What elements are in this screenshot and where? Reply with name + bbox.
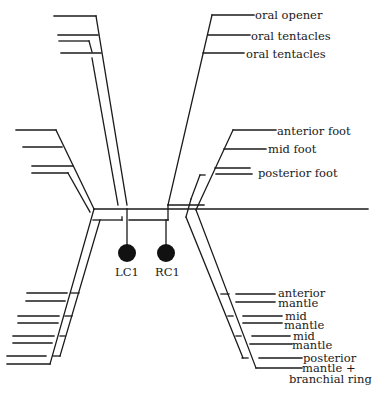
label-oral-tentacles-1: oral tentacles [251, 30, 331, 42]
left-oral-branches [54, 16, 127, 205]
rc1-label: RC1 [155, 266, 180, 278]
label-mid-mantle-b2: mantle [292, 339, 332, 351]
rc1-node [157, 244, 175, 262]
label-mid-foot: mid foot [268, 143, 316, 155]
label-anterior-mantle-2: mantle [278, 297, 318, 309]
lc1-label: LC1 [115, 266, 139, 278]
left-foot-branches [16, 130, 94, 212]
label-oral-tentacles-2: oral tentacles [246, 48, 326, 60]
label-posterior-foot: posterior foot [258, 167, 338, 179]
label-posterior-mantle-3: branchial ring [289, 373, 372, 385]
label-anterior-foot: anterior foot [277, 125, 351, 137]
label-oral-opener: oral opener [255, 9, 322, 21]
cell-bodies [118, 209, 175, 262]
lc1-node [118, 244, 136, 262]
